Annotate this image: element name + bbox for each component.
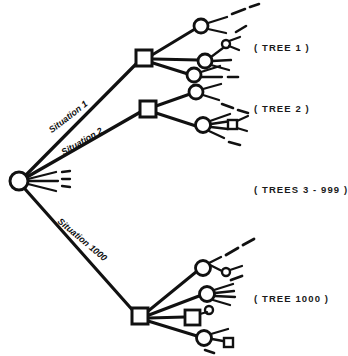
branch-situation-1 — [26, 60, 140, 175]
tree-1000-caption: ( TREE 1000 ) — [254, 293, 329, 304]
tree-1000-node-b-stub-4 — [213, 300, 230, 305]
trees-middle-caption: ( TREES 3 - 999 ) — [254, 184, 348, 195]
tree-1000-node-b-stub-2 — [215, 291, 234, 293]
root-stub-3 — [28, 184, 56, 191]
tree-1-branch-b — [154, 59, 198, 60]
root-node-group — [10, 60, 144, 314]
tree-2-caption: ( TREE 2 ) — [254, 103, 310, 114]
root-ellipsis-dash-3 — [62, 186, 70, 187]
tree-2-node-b-stub-3 — [211, 127, 228, 129]
tree-2-node-b-child-square — [228, 120, 237, 129]
tree-1-node-a — [194, 19, 208, 33]
tree-1-node-b-stub-1 — [211, 48, 223, 57]
tree-1000-node-a-dash-2 — [243, 239, 254, 245]
root-ellipsis-dash-1 — [62, 171, 70, 172]
tree-2-node-a-stub-1 — [203, 84, 221, 89]
tree-1000-node-d-stub-1 — [211, 329, 228, 334]
tree-2-node-b-child-stub-2 — [237, 128, 247, 131]
tree-1-node-b — [198, 54, 212, 68]
tree-2-branch-b — [156, 113, 196, 126]
tree-2-node-a-dash-1 — [222, 104, 233, 108]
tree-1-node-c — [187, 68, 201, 82]
tree-1000-branch-c — [149, 317, 185, 318]
tree-1000-node-d-child-square — [224, 338, 233, 347]
tree-1-node-a-stub-1 — [208, 17, 227, 23]
tree-1-node-a-stub-2 — [208, 29, 226, 33]
tree-1-node-b-stub-2 — [212, 60, 231, 61]
tree-1000-group — [132, 239, 254, 353]
tree-1-branch-c — [153, 63, 188, 74]
tree-1000-node-d-dash-1 — [205, 350, 214, 353]
tree-1000-node-a-dash-1 — [226, 248, 238, 255]
tree-1-node-a-dash-1 — [232, 9, 245, 14]
tree-2-branch-a — [156, 94, 190, 106]
branch-situation-1000 — [25, 189, 136, 314]
tree-1-node-b-child-stub-2 — [229, 46, 239, 50]
tree-2-node-b-child-stub-1 — [237, 116, 248, 121]
tree-1-group — [136, 4, 259, 82]
tree-2-node-a — [189, 85, 203, 99]
tree-1000-node-a-child-stub-1 — [230, 266, 242, 270]
tree-1-node-b-child-stub-1 — [229, 37, 240, 41]
tree-2-node-b-dash-1 — [229, 142, 240, 145]
tree-1000-node-a-stub-2 — [209, 257, 221, 263]
tree-2-node-b-stub-4 — [209, 131, 224, 138]
tree-2-group — [140, 84, 248, 145]
tree-1000-node-d-stub-2 — [212, 339, 223, 341]
tree-1-branch-a — [152, 29, 195, 55]
tree-1000-node-a-child-circle — [222, 268, 230, 276]
tree-1000-node-d — [197, 331, 212, 346]
tree-1000-decision-square — [132, 308, 148, 324]
tree-1-caption: ( TREE 1 ) — [254, 42, 310, 53]
tree-1-node-a-dash-2 — [250, 4, 259, 7]
tree-1000-node-b-stub-1 — [214, 284, 233, 290]
tree-2-node-a-dash-2 — [238, 110, 248, 113]
root-circle-node — [10, 172, 28, 190]
tree-1-node-b-dash-1 — [236, 26, 246, 32]
tree-1000-node-b-dash-1 — [231, 276, 242, 280]
tree-1000-node-b-stub-3 — [215, 296, 235, 297]
tree-1000-node-c-square — [185, 310, 200, 325]
tree-2-node-a-stub-2 — [203, 95, 219, 100]
tree-2-decision-square — [140, 101, 156, 117]
tree-1-decision-square — [136, 50, 152, 66]
